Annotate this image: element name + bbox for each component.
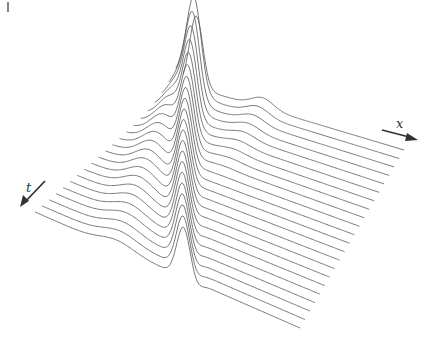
t-axis-arrowhead-icon [20,195,29,207]
t-axis-indicator: t [20,180,45,207]
time-slice-curve [183,16,404,150]
x-axis-indicator: x [382,116,418,141]
time-slice-curve [49,200,310,311]
time-slice-curves [35,0,404,328]
x-axis-label: x [396,116,404,131]
waterfall-figure: x t [0,0,437,338]
time-slice-curve [148,52,379,192]
time-slice-curve [91,140,339,260]
x-axis-arrowhead-icon [405,133,418,141]
time-slice-curve [70,172,325,285]
time-slice-curve [162,26,389,176]
time-slice-curve [134,76,370,209]
time-slice-curve [169,12,394,167]
time-slice-curve [127,88,365,218]
t-axis-label: t [26,180,32,195]
